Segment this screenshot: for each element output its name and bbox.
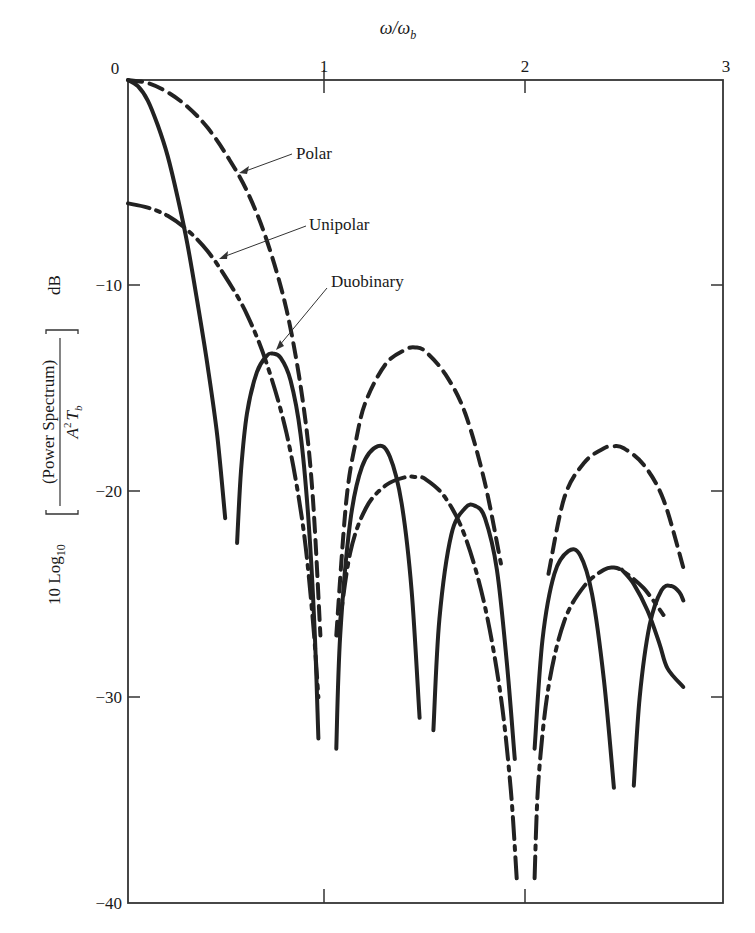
svg-text:(Power Spectrum): (Power Spectrum) — [39, 360, 58, 484]
polar-label: Polar — [296, 144, 332, 163]
svg-text:2: 2 — [521, 57, 530, 76]
curves — [128, 80, 683, 878]
power-spectrum-chart: ω/ωb 0 1 2 3 −10 −20 −30 −40 10 Log10 — [0, 0, 755, 933]
annotations: Polar Unipolar Duobinary — [219, 144, 404, 350]
svg-text:−20: −20 — [95, 482, 122, 501]
unipolar-label: Unipolar — [309, 215, 370, 234]
svg-text:0: 0 — [111, 59, 120, 78]
polar-curve — [128, 80, 320, 636]
svg-text:−10: −10 — [95, 276, 122, 295]
unipolar-curve — [128, 203, 318, 697]
svg-text:1: 1 — [320, 57, 329, 76]
y-ticks — [128, 285, 723, 697]
unipolar-curve — [535, 567, 664, 878]
x-tick-labels: 0 1 2 3 — [111, 57, 731, 78]
svg-text:A2Tb: A2Tb — [61, 405, 84, 439]
polar-curve — [549, 446, 684, 574]
duobinary-curve — [634, 586, 684, 786]
svg-text:10 Log10: 10 Log10 — [45, 544, 68, 605]
duobinary-curve — [128, 80, 225, 518]
y-tick-labels: −10 −20 −30 −40 — [95, 276, 122, 913]
svg-text:−40: −40 — [95, 894, 122, 913]
svg-text:3: 3 — [722, 57, 731, 76]
duobinary-curve — [535, 549, 614, 788]
x-axis-title: ω/ωb — [380, 18, 416, 42]
svg-text:−30: −30 — [95, 688, 122, 707]
polar-arrow — [243, 154, 292, 172]
duobinary-label: Duobinary — [331, 272, 404, 291]
y-axis-title: 10 Log10 (Power Spectrum) A2Tb dB — [39, 275, 84, 605]
polar-curve — [336, 347, 501, 635]
duobinary-arrow — [279, 288, 327, 346]
x-ticks — [324, 70, 525, 903]
svg-text:dB: dB — [45, 275, 64, 295]
